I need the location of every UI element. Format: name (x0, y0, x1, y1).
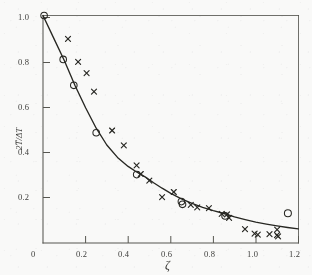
cross-marker (121, 143, 126, 148)
x-axis-title: ζ (165, 258, 170, 273)
fitted-curve (43, 16, 298, 229)
cross-marker-series (66, 36, 281, 239)
cross-marker (134, 163, 139, 168)
y-tick-label-0: 0 (31, 249, 35, 259)
x-tick-label-0.2: 0.2 (76, 249, 87, 259)
circle-marker (284, 210, 291, 217)
y-tick-label-0.8: 0.8 (18, 57, 29, 67)
figure-container: 1.0 0.8 0.6 0.4 0.2 0 0.2 0.4 0.6 0.8 1.… (0, 0, 312, 275)
circle-marker-series (41, 12, 292, 219)
cross-marker (84, 71, 89, 76)
cross-marker (66, 36, 71, 41)
y-tick-label-0.6: 0.6 (18, 102, 29, 112)
y-axis-title: 2T̅/ΔT (14, 128, 24, 150)
cross-marker (267, 232, 272, 237)
cross-marker (110, 128, 115, 133)
x-tick-label-0.4: 0.4 (118, 249, 129, 259)
axis-frame (43, 16, 299, 244)
cross-marker (171, 190, 176, 195)
plot-canvas (0, 0, 312, 275)
cross-marker (243, 227, 248, 232)
x-tick-label-0.8: 0.8 (204, 249, 215, 259)
y-axis-ticks (43, 18, 50, 198)
cross-marker (160, 195, 165, 200)
cross-marker (76, 59, 81, 64)
cross-marker (275, 227, 280, 232)
y-tick-label-0.2: 0.2 (18, 192, 29, 202)
x-tick-label-1.2: 1.2 (289, 249, 300, 259)
x-tick-label-1.0: 1.0 (247, 249, 258, 259)
y-tick-label-1.0: 1.0 (18, 12, 29, 22)
cross-marker (92, 89, 97, 94)
